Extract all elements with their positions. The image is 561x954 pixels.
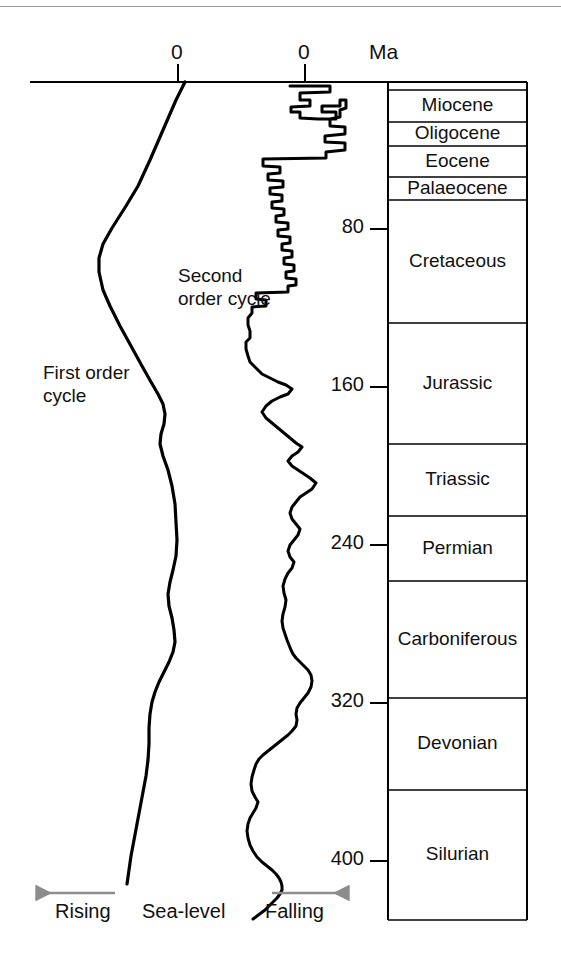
- curves: [99, 82, 346, 919]
- strat-unit-silurian: Silurian: [388, 843, 527, 865]
- zero-label-second-order: 0: [298, 40, 310, 65]
- strat-unit-devonian: Devonian: [388, 732, 527, 754]
- footer-falling-label: Falling: [265, 900, 324, 924]
- footer-rising-label: Rising: [55, 900, 111, 924]
- annotation-first-order-line2: cycle: [43, 385, 86, 407]
- ma-ticks: [370, 229, 388, 861]
- strat-unit-jurassic: Jurassic: [388, 372, 527, 394]
- footer-sea-level-label: Sea-level: [142, 900, 225, 924]
- ma-tick-label-240: 240: [292, 531, 364, 555]
- first-order-cycle-curve: [99, 82, 185, 884]
- ma-tick-label-80: 80: [292, 215, 364, 239]
- ma-tick-label-160: 160: [292, 373, 364, 397]
- strat-unit-permian: Permian: [388, 537, 527, 559]
- top-axis: [30, 64, 527, 82]
- annotation-second-order-line2: order cycle: [178, 288, 271, 310]
- strat-unit-oligocene: Oligocene: [388, 122, 527, 144]
- strat-unit-cretaceous: Cretaceous: [388, 250, 527, 272]
- strat-unit-carboniferous: Carboniferous: [388, 628, 527, 650]
- ma-axis-label: Ma: [369, 40, 398, 65]
- stratigraphic-column: [388, 82, 527, 920]
- annotation-first-order-line1: First order: [43, 362, 130, 384]
- strat-unit-eocene: Eocene: [388, 150, 527, 172]
- strat-unit-triassic: Triassic: [388, 468, 527, 490]
- annotation-second-order-line1: Second: [178, 265, 242, 287]
- zero-label-first-order: 0: [171, 40, 183, 65]
- ma-tick-label-320: 320: [292, 689, 364, 713]
- second-order-cycle-curve: [246, 86, 346, 919]
- figure-canvas: 0 0 Ma Second order cycle First order cy…: [0, 0, 561, 954]
- ma-tick-label-400: 400: [292, 847, 364, 871]
- strat-unit-miocene: Miocene: [388, 94, 527, 116]
- strat-unit-palaeocene: Palaeocene: [388, 177, 527, 199]
